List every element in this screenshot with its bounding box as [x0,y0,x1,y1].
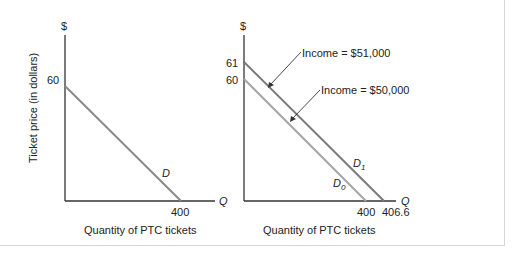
arrow-head-51000 [268,82,274,88]
left-chart: $ Q 60 400 Ticket price (in dollars) Qua… [27,20,228,236]
right-x-label: Quantity of PTC tickets [263,224,376,236]
arrow-head-50000 [290,116,296,122]
demand-curve-d [65,86,181,201]
left-y-label: Ticket price (in dollars) [27,53,39,163]
right-y-symbol: $ [240,20,246,32]
income-50000-annotation: Income = $50,000 [290,84,409,122]
left-x-symbol: Q [219,195,228,207]
left-x-tick-400: 400 [171,206,189,218]
income-51000-annotation: Income = $51,000 [268,47,390,88]
left-x-label: Quantity of PTC tickets [84,224,197,236]
arrow-line-50000 [293,90,320,118]
right-chart: $ Q 61 60 400 406.6 Quantity of PTC tick… [226,20,410,236]
demand-curve-d0 [244,79,366,201]
right-y-tick-61: 61 [226,57,238,69]
right-y-tick-60: 60 [226,74,238,86]
curve-label-d1: D1 [353,157,365,172]
income-50000-label: Income = $50,000 [321,84,409,96]
income-51000-label: Income = $51,000 [302,47,390,59]
arrow-line-51000 [271,52,301,84]
curve-label-d: D [162,167,170,179]
right-x-tick-400: 400 [357,206,375,218]
demand-charts: $ Q 60 400 Ticket price (in dollars) Qua… [0,0,517,257]
right-x-tick-406-6: 406.6 [382,206,410,218]
left-y-tick-60: 60 [47,74,59,86]
demand-curve-d1 [244,62,384,201]
left-y-symbol: $ [61,20,67,32]
